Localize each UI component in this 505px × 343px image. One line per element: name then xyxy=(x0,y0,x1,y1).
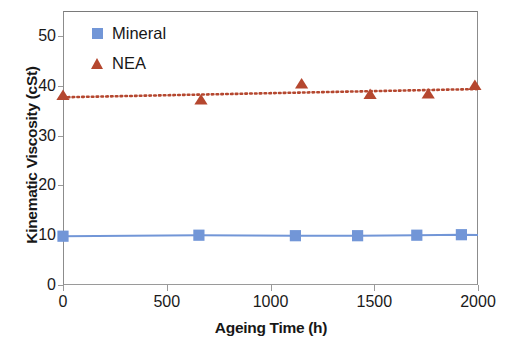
x-tick-mark xyxy=(478,285,479,291)
square-marker-icon xyxy=(86,28,108,39)
triangle-marker-icon xyxy=(86,58,108,69)
chart-legend: Mineral NEA xyxy=(86,18,166,78)
x-tick-mark xyxy=(167,285,168,291)
y-tick-label: 0 xyxy=(47,277,56,293)
x-tick-mark xyxy=(63,285,64,291)
x-tick-label: 1500 xyxy=(334,294,414,310)
y-tick-label: 30 xyxy=(38,128,56,144)
x-tick-label: 0 xyxy=(23,294,103,310)
legend-item-mineral: Mineral xyxy=(86,18,166,48)
legend-item-nea: NEA xyxy=(86,48,166,78)
legend-label-nea: NEA xyxy=(112,54,146,73)
x-axis-title: Ageing Time (h) xyxy=(63,319,479,337)
x-tick-label: 2000 xyxy=(438,294,505,310)
x-tick-label: 500 xyxy=(127,294,207,310)
y-tick-label: 40 xyxy=(38,78,56,94)
x-tick-label: 1000 xyxy=(231,294,311,310)
x-tick-mark xyxy=(374,285,375,291)
legend-label-mineral: Mineral xyxy=(112,24,166,43)
chart-figure: Kinematic Viscosity (cSt) Ageing Time (h… xyxy=(0,0,505,343)
x-tick-mark xyxy=(271,285,272,291)
y-tick-label: 50 xyxy=(38,28,56,44)
y-tick-label: 20 xyxy=(38,177,56,193)
y-tick-label: 10 xyxy=(38,227,56,243)
